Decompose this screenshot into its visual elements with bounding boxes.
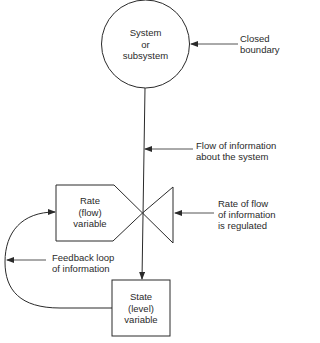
valve-triangle bbox=[143, 187, 174, 243]
feedback-loop-label: Feedback loop of information bbox=[52, 252, 114, 274]
rate-label-line3: variable bbox=[60, 218, 120, 230]
state-label-line2: (level) bbox=[112, 303, 170, 315]
feedback-loop-line1: Feedback loop bbox=[52, 252, 114, 263]
feedback-loop-line2: of information bbox=[52, 263, 114, 274]
closed-boundary-line1: Closed bbox=[240, 33, 280, 44]
state-variable-label: State (level) variable bbox=[112, 291, 170, 326]
state-label-line3: variable bbox=[112, 314, 170, 326]
flow-info-line2: about the system bbox=[196, 151, 276, 162]
rate-regulated-line1: Rate of flow bbox=[218, 198, 276, 209]
system-label-line3: subsystem bbox=[101, 50, 190, 62]
rate-label-line2: (flow) bbox=[60, 207, 120, 219]
closed-boundary-line2: boundary bbox=[240, 44, 280, 55]
flow-info-line1: Flow of information bbox=[196, 140, 276, 151]
flow-info-label: Flow of information about the system bbox=[196, 140, 276, 162]
rate-regulated-line2: of information bbox=[218, 209, 276, 220]
system-label-line1: System bbox=[101, 27, 190, 39]
state-label-line1: State bbox=[112, 291, 170, 303]
information-flow-line bbox=[142, 88, 145, 279]
closed-boundary-label: Closed boundary bbox=[240, 33, 280, 55]
system-label: System or subsystem bbox=[101, 27, 190, 62]
system-label-line2: or bbox=[101, 39, 190, 51]
rate-regulated-label: Rate of flow of information is regulated bbox=[218, 198, 276, 231]
rate-label-line1: Rate bbox=[60, 195, 120, 207]
rate-variable-label: Rate (flow) variable bbox=[60, 195, 120, 230]
rate-regulated-line3: is regulated bbox=[218, 220, 276, 231]
